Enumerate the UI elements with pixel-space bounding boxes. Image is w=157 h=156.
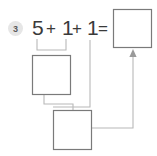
equation-plus-operator-1: +	[46, 19, 56, 38]
result-answer-box[interactable]	[114, 10, 152, 48]
arrow-up-icon	[129, 49, 136, 57]
equation-unit-term-2: 1	[87, 16, 99, 39]
math-diagram: 3 5 + 1 + 1 =	[0, 0, 157, 156]
equation-row: 5 + 1 + 1 =	[32, 16, 108, 39]
connector-total-to-result-box	[92, 56, 133, 128]
equation-equals-sign: =	[98, 19, 108, 38]
equation-plus-operator-2: +	[72, 19, 82, 38]
total-answer-box[interactable]	[54, 111, 92, 150]
connector-partial-to-total-box	[44, 95, 73, 110]
partial-answer-box[interactable]	[33, 56, 71, 95]
equation-first-addend: 5	[32, 16, 44, 39]
exercise-number-badge: 3	[8, 21, 23, 36]
grouping-bracket-icon	[37, 39, 66, 50]
worksheet-problem-canvas: 3 5 + 1 + 1 =	[0, 0, 157, 156]
exercise-number-label: 3	[13, 24, 18, 34]
